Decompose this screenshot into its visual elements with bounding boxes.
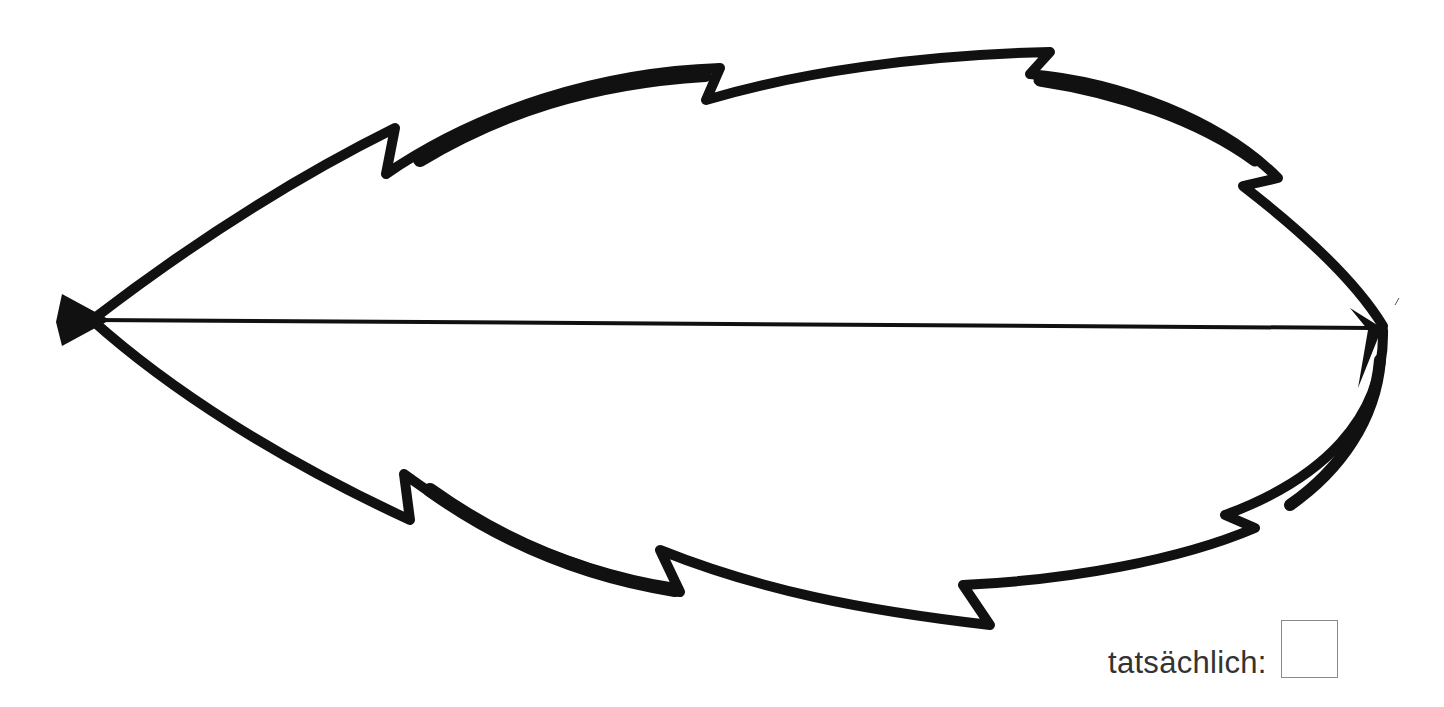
actual-label: tatsächlich:	[1108, 645, 1267, 681]
actual-answer-box[interactable]	[1281, 620, 1338, 678]
leaf-outline	[92, 52, 1383, 625]
left-arrowhead-icon	[56, 294, 110, 346]
leaf-diagram	[0, 0, 1444, 707]
answer-row: tatsächlich:	[1108, 620, 1338, 681]
midline-arrow	[56, 294, 1399, 388]
